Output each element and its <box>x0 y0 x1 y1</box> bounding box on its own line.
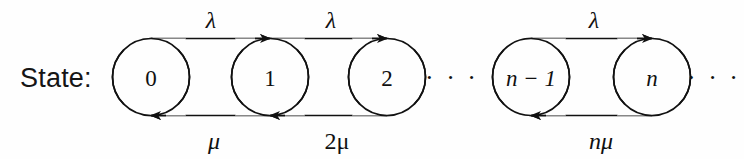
state-node-n-label: n <box>646 66 658 91</box>
middle-ellipsis: · · · <box>425 63 479 92</box>
state-node-1-label: 1 <box>264 66 276 91</box>
service-rate-label-n-to-nminus1: nμ <box>589 128 613 154</box>
service-rate-label-2-to-1: 2μ <box>325 128 350 154</box>
diagram-canvas: State: <box>0 0 744 159</box>
state-node-2-label: 2 <box>381 66 393 91</box>
markov-chain-diagram: State: <box>0 0 744 159</box>
arrival-rate-label-0-to-1: λ <box>205 7 216 33</box>
state-node-nminus1-label: n − 1 <box>506 66 556 91</box>
trailing-ellipsis: · · · <box>687 63 741 92</box>
service-rate-label-1-to-0: μ <box>207 128 220 154</box>
arrival-rate-label-nminus1-to-n: λ <box>588 7 599 33</box>
state-caption-label: State: <box>20 63 92 93</box>
state-node-0-label: 0 <box>145 66 157 91</box>
arrival-rate-label-1-to-2: λ <box>325 7 336 33</box>
